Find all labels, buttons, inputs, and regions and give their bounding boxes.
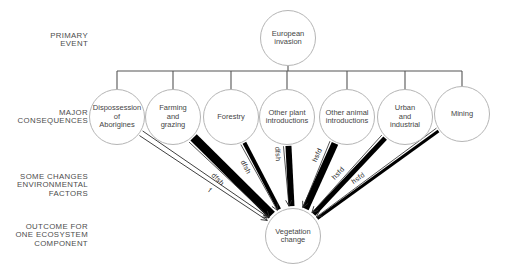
node-dispossession-of-aborigines: Dispossession of Aborigines [89,89,145,145]
node-label: Farming and grazing [159,104,187,129]
node-farming-and-grazing: Farming and grazing [145,89,201,145]
row-label-outcome: OUTCOME FOR ONE ECOSYSTEM COMPONENT [15,223,88,248]
row-label-major-consequences: MAJOR CONSEQUENCES [18,109,89,126]
arrow-label-other-plant: dfsh [274,147,282,162]
node-label: Other animal introductions [326,109,369,126]
node-other-plant-introductions: Other plant introductions [259,89,315,145]
node-label: Urban and industrial [390,104,420,129]
node-label: European invasion [272,30,305,47]
node-label: Mining [451,110,473,118]
diagram-page: PRIMARY EVENT MAJOR CONSEQUENCES SOME CH… [0,0,509,271]
node-vegetation-change: Vegetation change [265,208,321,264]
node-label: Dispossession of Aborigines [93,104,141,129]
node-urban-and-industrial: Urban and industrial [377,89,433,145]
row-label-primary-event: PRIMARY EVENT [50,32,88,49]
impact-bar-3 [288,146,291,206]
node-other-animal-introductions: Other animal introductions [319,89,375,145]
guide-line-1 [189,142,269,217]
node-label: Vegetation change [275,228,310,245]
node-label: Forestry [217,113,245,121]
node-label: Other plant introductions [266,109,309,126]
node-european-invasion: European invasion [260,10,316,66]
node-forestry: Forestry [203,89,259,145]
node-mining: Mining [434,86,490,142]
row-label-environmental-factors: SOME CHANGES ENVIRONMENTAL FACTORS [17,173,88,198]
